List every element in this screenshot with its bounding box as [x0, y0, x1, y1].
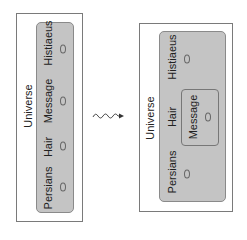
left-universe-label: Universe: [23, 84, 34, 127]
right-oval-histiaeus: [184, 55, 190, 64]
right-universe-label: Universe: [145, 96, 156, 139]
right-label-persians: Persians: [167, 151, 178, 194]
right-label-message: Message: [188, 95, 199, 140]
right-oval-persians: [184, 170, 190, 179]
left-oval-message: [60, 97, 66, 106]
left-oval-hair: [60, 142, 66, 151]
left-oval-persians: [60, 183, 66, 192]
right-label-hair: Hair: [167, 107, 178, 127]
left-label-message: Message: [43, 79, 54, 124]
squiggle-arrow-icon: [92, 110, 126, 122]
left-oval-histiaeus: [60, 45, 66, 54]
right-oval-message: [205, 113, 211, 122]
left-label-hair: Hair: [43, 137, 54, 157]
left-label-persians: Persians: [43, 167, 54, 210]
right-label-histiaeus: Histiaeus: [167, 34, 178, 79]
left-label-histiaeus: Histiaeus: [43, 20, 54, 65]
